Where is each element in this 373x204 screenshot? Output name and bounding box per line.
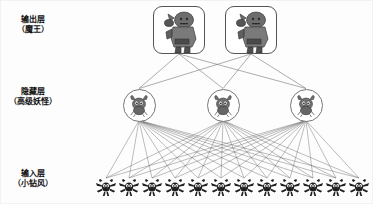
hidden-node-3[interactable] [290, 89, 323, 122]
output-layer-label-line2: （魔王） [17, 25, 49, 35]
connection-line [139, 54, 251, 89]
horned-monster-icon [294, 93, 318, 117]
input-layer-label-line1: 输入层 [13, 169, 53, 179]
connection-line [223, 121, 313, 179]
connection-line [223, 54, 251, 89]
horned-monster-icon [211, 93, 235, 117]
input-node-9[interactable] [279, 177, 301, 197]
scout-imp-icon [302, 177, 324, 197]
connection-line [152, 121, 223, 179]
connection-line [139, 121, 152, 179]
connection-line [179, 54, 223, 89]
hidden-layer-label-line1: 隐藏层 [9, 87, 57, 97]
input-node-3[interactable] [141, 177, 163, 197]
hidden-layer-label-line2: （高级妖怪） [9, 97, 57, 107]
scout-imp-icon [187, 177, 209, 197]
scout-imp-icon [325, 177, 347, 197]
scout-imp-icon [141, 177, 163, 197]
hidden-node-1[interactable] [123, 89, 156, 122]
input-node-11[interactable] [325, 177, 347, 197]
demon-king-icon [232, 9, 272, 53]
connection-line [244, 121, 306, 179]
connection-line [198, 121, 223, 179]
output-node-1[interactable] [153, 6, 205, 54]
input-node-8[interactable] [256, 177, 278, 197]
input-layer-label-line2: （小钻风） [13, 179, 53, 189]
output-layer-label-line1: 输出层 [17, 15, 49, 25]
demon-king-icon [160, 9, 200, 53]
scout-imp-icon [279, 177, 301, 197]
input-node-6[interactable] [210, 177, 232, 197]
input-node-5[interactable] [187, 177, 209, 197]
connection-line [251, 54, 306, 89]
connection-line [221, 121, 306, 179]
connection-line [139, 121, 175, 179]
connection-line [306, 121, 359, 179]
scout-imp-icon [256, 177, 278, 197]
connection-line [179, 54, 306, 89]
input-node-7[interactable] [233, 177, 255, 197]
connection-line [139, 54, 179, 89]
connection-line [152, 121, 306, 179]
input-node-10[interactable] [302, 177, 324, 197]
input-node-12[interactable] [348, 177, 370, 197]
connection-line [175, 121, 223, 179]
connection-line [139, 121, 267, 179]
connection-line [306, 121, 336, 179]
connection-line [221, 121, 223, 179]
output-layer-label: 输出层 （魔王） [17, 15, 49, 35]
output-node-2[interactable] [225, 6, 277, 54]
connection-line [290, 121, 306, 179]
input-node-4[interactable] [164, 177, 186, 197]
scout-imp-icon [95, 177, 117, 197]
hidden-node-2[interactable] [207, 89, 240, 122]
connection-line [139, 121, 359, 179]
scout-imp-icon [348, 177, 370, 197]
input-node-2[interactable] [118, 177, 140, 197]
hidden-layer-label: 隐藏层 （高级妖怪） [9, 87, 57, 107]
scout-imp-icon [210, 177, 232, 197]
scout-imp-icon [118, 177, 140, 197]
input-node-1[interactable] [95, 177, 117, 197]
input-layer-label: 输入层 （小钻风） [13, 169, 53, 189]
horned-monster-icon [127, 93, 151, 117]
neural-network-diagram: 输出层 （魔王） 隐藏层 （高级妖怪） 输入层 （小钻风） [0, 0, 373, 204]
connection-line [139, 121, 244, 179]
connection-line [106, 121, 306, 179]
scout-imp-icon [233, 177, 255, 197]
scout-imp-icon [164, 177, 186, 197]
connection-line [223, 121, 359, 179]
